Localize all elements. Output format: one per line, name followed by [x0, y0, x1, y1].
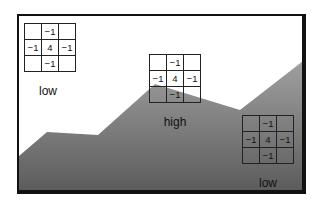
kernel-cell: [150, 87, 167, 103]
kernel-cell: [277, 148, 294, 164]
kernel-cell: [25, 56, 42, 72]
kernel-cell: 4: [167, 71, 184, 87]
kernel-cell: 4: [42, 40, 59, 56]
kernel-label-low-right: low: [238, 176, 298, 190]
kernel-cell: −1: [25, 40, 42, 56]
kernel-cell: −1: [243, 132, 260, 148]
kernel-cell: −1: [277, 132, 294, 148]
kernel-cell: [277, 116, 294, 132]
kernel-cell: −1: [59, 40, 76, 56]
kernel-cell: [243, 116, 260, 132]
kernel-cell: [184, 87, 201, 103]
kernel-cell: −1: [260, 116, 277, 132]
kernel-cell: [184, 55, 201, 71]
kernel-cell: −1: [42, 56, 59, 72]
kernel-cell: [150, 55, 167, 71]
kernel-cell: −1: [184, 71, 201, 87]
kernel-cell: [243, 148, 260, 164]
kernel-cell: −1: [260, 148, 277, 164]
kernel-top-left: −1 −14−1 −1: [24, 23, 76, 72]
kernel-cell: [59, 24, 76, 40]
kernel-cell: −1: [167, 55, 184, 71]
kernel-cell: −1: [150, 71, 167, 87]
kernel-label-high: high: [145, 115, 205, 129]
kernel-bottom-right: −1 −14−1 −1: [242, 115, 294, 164]
kernel-label-low-left: low: [18, 84, 78, 98]
kernel-cell: 4: [260, 132, 277, 148]
kernel-cell: −1: [42, 24, 59, 40]
kernel-cell: [59, 56, 76, 72]
kernel-middle: −1 −14−1 −1: [149, 54, 201, 103]
kernel-cell: [25, 24, 42, 40]
kernel-cell: −1: [167, 87, 184, 103]
